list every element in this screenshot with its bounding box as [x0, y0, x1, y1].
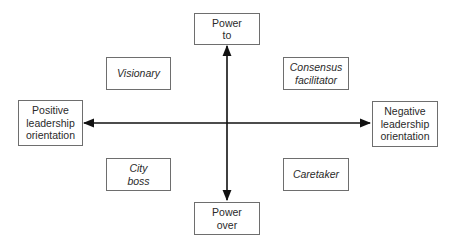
negative-leadership-label: Negative leadership orientation — [380, 105, 429, 143]
power-to-box: Power to — [194, 13, 260, 45]
negative-leadership-box: Negative leadership orientation — [372, 101, 438, 147]
positive-leadership-label: Positive leadership orientation — [26, 104, 75, 142]
city-boss-box: City boss — [106, 158, 171, 191]
consensus-facilitator-box: Consensus facilitator — [283, 57, 349, 90]
caretaker-label: Caretaker — [293, 168, 339, 181]
power-over-box: Power over — [194, 202, 260, 235]
power-to-label: Power to — [212, 17, 242, 42]
visionary-box: Visionary — [106, 57, 171, 90]
power-over-label: Power over — [212, 206, 242, 231]
consensus-facilitator-label: Consensus facilitator — [290, 61, 343, 86]
visionary-label: Visionary — [117, 67, 160, 80]
caretaker-box: Caretaker — [283, 158, 349, 191]
city-boss-label: City boss — [127, 162, 149, 187]
positive-leadership-box: Positive leadership orientation — [18, 100, 83, 146]
